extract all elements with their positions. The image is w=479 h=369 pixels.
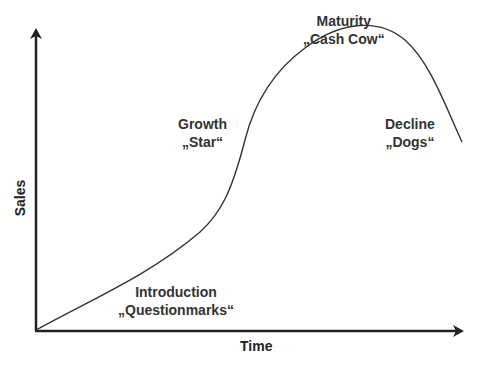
stage-introduction: Introduction (118, 283, 234, 301)
label-introduction: Introduction „Questionmarks“ (118, 283, 234, 319)
label-growth: Growth „Star“ (178, 115, 227, 151)
stage-decline: Decline (385, 115, 435, 133)
nickname-questionmarks: „Questionmarks“ (118, 301, 234, 319)
chart-canvas (0, 0, 479, 369)
nickname-cash-cow: „Cash Cow“ (303, 30, 385, 48)
stage-maturity: Maturity (303, 12, 385, 30)
x-axis-title: Time (240, 338, 272, 354)
label-decline: Decline „Dogs“ (385, 115, 435, 151)
nickname-dogs: „Dogs“ (385, 133, 435, 151)
label-maturity: Maturity „Cash Cow“ (303, 12, 385, 48)
stage-growth: Growth (178, 115, 227, 133)
life-cycle-curve (36, 25, 462, 330)
y-axis-title: Sales (12, 180, 28, 217)
nickname-star: „Star“ (178, 133, 227, 151)
